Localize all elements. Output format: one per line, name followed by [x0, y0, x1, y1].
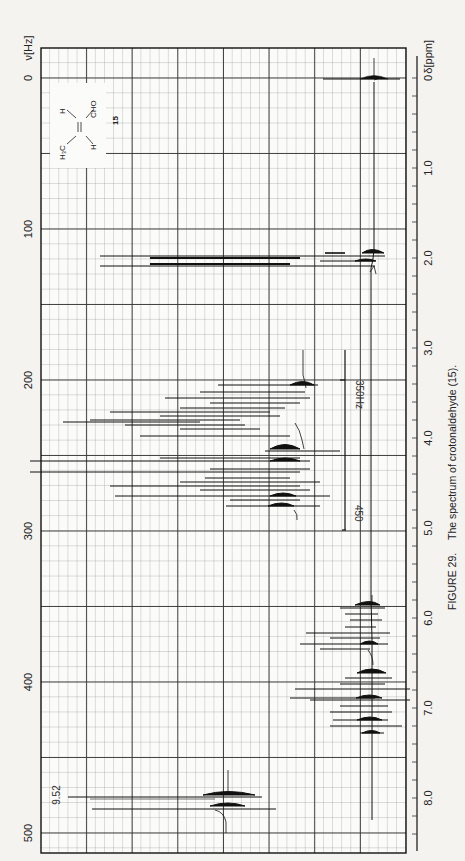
chart-grid — [41, 48, 406, 853]
ppm-tick: 0 — [422, 75, 434, 81]
offset-450-label: 450 — [353, 505, 364, 522]
structure-cho-label: CHO — [89, 100, 98, 118]
ppm-tick: 3.0 — [422, 340, 434, 355]
hz-tick: 300 — [22, 522, 34, 540]
ppm-axis-label: δ[ppm] — [422, 40, 434, 74]
structure-ch3-label: H₃C — [58, 145, 67, 160]
ppm-tick: 5.0 — [422, 520, 434, 535]
ppm-tick: 8.0 — [422, 790, 434, 805]
figure-caption: FIGURE 29. The spectrum of crotonaldehyd… — [446, 365, 458, 610]
ppm-tick: 4.0 — [422, 430, 434, 445]
hz-tick: 400 — [22, 673, 34, 691]
ppm-tick: 6.0 — [422, 610, 434, 625]
hz-tick: 100 — [22, 220, 34, 238]
ppm-axis: δ[ppm] 0 1.0 2.0 3.0 4.0 5.0 6.0 7.0 8.0 — [412, 40, 434, 851]
structure-h-bottom: H — [89, 144, 98, 150]
hz-axis: ν[Hz] 0 100 200 300 400 500 — [22, 35, 34, 842]
spectrum-figure: ν[Hz] 0 100 200 300 400 500 δ[ppm] 0 1.0… — [0, 0, 465, 861]
offset-value-label: 9.52 — [51, 785, 62, 805]
caption-text: The spectrum of crotonaldehyde (15). — [446, 365, 458, 540]
ppm-tick: 7.0 — [422, 700, 434, 715]
hz-tick: 0 — [22, 75, 34, 81]
ppm-tick: 2.0 — [422, 250, 434, 265]
structure-h-top: H — [58, 108, 67, 114]
offset-350-label: 350Hz — [354, 380, 365, 409]
hz-tick: 200 — [22, 371, 34, 389]
hz-tick: 500 — [22, 824, 34, 842]
compound-number: 15 — [111, 116, 120, 125]
nmr-spectrum-page: ν[Hz] 0 100 200 300 400 500 δ[ppm] 0 1.0… — [0, 0, 465, 861]
ppm-tick: 1.0 — [422, 160, 434, 175]
caption-label: FIGURE 29. — [446, 553, 458, 610]
hz-axis-label: ν[Hz] — [22, 35, 34, 60]
